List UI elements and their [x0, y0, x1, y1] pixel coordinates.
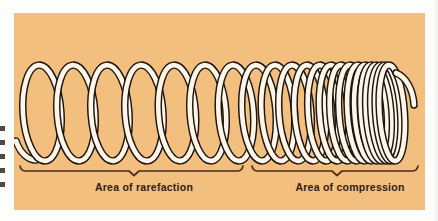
- caption-area-of-compression: Area of compression: [261, 181, 438, 193]
- brace-compression: [252, 166, 418, 176]
- margin-mark: [0, 182, 5, 187]
- margin-mark: [0, 126, 5, 131]
- figure-page: Area of rarefaction Area of compression: [0, 0, 438, 221]
- margin-mark: [0, 168, 5, 173]
- caption-area-of-rarefaction: Area of rarefaction: [28, 181, 260, 193]
- margin-mark: [0, 140, 5, 145]
- illustration-panel: Area of rarefaction Area of compression: [14, 13, 425, 210]
- brace-rarefaction: [20, 166, 243, 176]
- scan-edge-shading: [432, 0, 438, 221]
- margin-mark: [0, 154, 5, 159]
- page-margin-marks: [0, 126, 7, 192]
